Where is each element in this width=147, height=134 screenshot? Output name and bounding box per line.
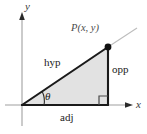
adjacent-side-label: adj	[60, 112, 73, 123]
angle-theta-label: θ	[45, 91, 50, 102]
point-p-label: P(x, y)	[71, 23, 99, 34]
point-p-marker	[105, 44, 112, 51]
y-axis-arrowhead-icon	[19, 12, 25, 20]
opposite-side-label: opp	[112, 64, 129, 75]
y-axis-label: y	[25, 1, 30, 12]
hypotenuse-label: hyp	[44, 57, 61, 68]
terminal-ray-extension	[108, 28, 137, 47]
x-axis-label: x	[136, 99, 141, 110]
x-axis-arrowhead-icon	[125, 102, 133, 108]
trigonometry-figure: y x P(x, y) hyp opp adj θ	[0, 0, 147, 134]
